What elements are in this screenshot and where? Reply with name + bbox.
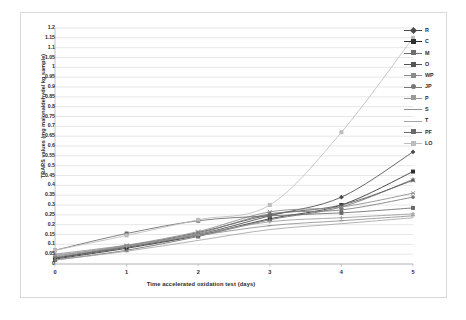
legend-item-wp[interactable]: WP xyxy=(403,70,466,81)
legend-item-label: O xyxy=(425,62,429,67)
legend-marker-icon xyxy=(403,37,423,46)
legend-item-pf[interactable]: PF xyxy=(403,127,466,138)
legend-item-lo[interactable]: LO xyxy=(403,138,466,149)
legend-item-t[interactable]: T xyxy=(403,115,466,126)
legend-item-label: P xyxy=(425,96,429,101)
legend-marker-icon xyxy=(403,139,423,148)
legend-item-label: JP xyxy=(425,84,432,89)
legend-item-label: LO xyxy=(425,141,433,146)
chart-screenshot: 00.050.10.150.20.250.30.350.40.450.50.55… xyxy=(0,0,466,320)
legend-item-s[interactable]: S xyxy=(403,104,466,115)
legend-item-m[interactable]: M xyxy=(403,48,466,59)
y-axis-tick-label: 0.2 xyxy=(25,222,55,227)
y-axis-tick-label: 0.15 xyxy=(25,232,55,237)
x-axis-tick-label: 4 xyxy=(340,269,344,275)
y-axis-title: TBARS values (mg malonaldehyde/ kg sampl… xyxy=(40,26,46,206)
legend-item-label: R xyxy=(425,28,429,33)
y-axis-tick-label: 0.05 xyxy=(25,251,55,256)
legend-marker-icon xyxy=(403,105,423,114)
legend-marker-icon xyxy=(403,49,423,58)
chart-frame: 00.050.10.150.20.250.30.350.40.450.50.55… xyxy=(20,12,447,298)
x-axis-title: Time accelerated oxidation test (days) xyxy=(21,281,381,287)
legend-item-o[interactable]: O xyxy=(403,59,466,70)
chart-legend: RCMOWPJPPSTPFLO xyxy=(403,25,466,165)
y-axis-tick-label: 0 xyxy=(25,261,55,266)
legend-item-label: WP xyxy=(425,73,434,78)
legend-marker-icon xyxy=(403,117,423,126)
legend-item-p[interactable]: P xyxy=(403,93,466,104)
legend-item-jp[interactable]: JP xyxy=(403,81,466,92)
x-axis-tick-label: 2 xyxy=(197,269,200,275)
series-pf xyxy=(53,206,415,252)
y-axis-tick-labels: 00.050.10.150.20.250.30.350.40.450.50.55… xyxy=(21,13,55,299)
legend-item-label: M xyxy=(425,51,430,56)
y-axis-tick-label: 0.1 xyxy=(25,241,55,246)
x-axis-ticks: 012345 xyxy=(53,264,414,275)
legend-item-r[interactable]: R xyxy=(403,25,466,36)
legend-marker-icon xyxy=(403,60,423,69)
legend-item-label: T xyxy=(425,118,428,123)
x-axis-tick-label: 5 xyxy=(411,269,414,275)
legend-marker-icon xyxy=(403,26,423,35)
legend-marker-icon xyxy=(403,83,423,92)
legend-item-label: PF xyxy=(425,130,432,135)
plot-svg: 012345 xyxy=(21,13,448,299)
legend-item-label: C xyxy=(425,39,429,44)
legend-item-label: S xyxy=(425,107,429,112)
gridlines xyxy=(55,28,413,264)
y-axis-tick-label: 0.25 xyxy=(25,212,55,217)
legend-marker-icon xyxy=(403,71,423,80)
legend-item-c[interactable]: C xyxy=(403,36,466,47)
legend-marker-icon xyxy=(403,94,423,103)
x-axis-tick-label: 1 xyxy=(125,269,128,275)
plot-area: 00.050.10.150.20.250.30.350.40.450.50.55… xyxy=(21,13,448,299)
legend-marker-icon xyxy=(403,128,423,137)
x-axis-tick-label: 3 xyxy=(268,269,271,275)
